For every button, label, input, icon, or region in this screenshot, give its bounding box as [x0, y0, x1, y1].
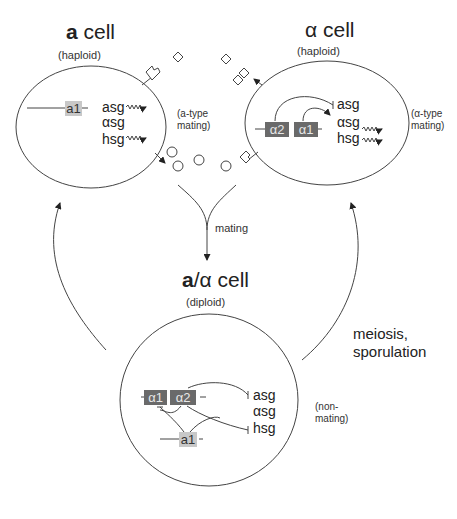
alpha-cell-title: α cell: [305, 18, 355, 42]
diploid-cell-title: a/α cell: [182, 268, 249, 292]
alpha2-locus: α2: [265, 122, 289, 137]
alpha-cell-gene-hsg: hsg: [337, 130, 360, 146]
a1-locus: a1: [65, 101, 82, 116]
diploid-gene-asg: asg: [253, 387, 276, 403]
a-cell-gene-alphasg: αsg: [102, 114, 125, 130]
alpha1-locus: α1: [294, 122, 318, 137]
diploid-alpha2-locus: α2: [170, 390, 196, 405]
a-cell-gene-hsg: hsg: [102, 131, 125, 147]
alpha-cell-gene-alphasg: αsg: [337, 114, 360, 130]
a-cell-gene-asg: asg: [102, 99, 125, 115]
a-cell-ploidy: (haploid): [58, 49, 101, 61]
alpha-cell-ploidy: (haploid): [297, 45, 340, 57]
diagram-canvas: [0, 0, 457, 519]
alpha-cell-phenotype: (α-typemating): [411, 108, 444, 132]
mating-label: mating: [215, 222, 248, 234]
diploid-a1-locus: a1: [179, 432, 197, 447]
diploid-gene-alphasg: αsg: [253, 403, 276, 419]
meiosis-sporulation-label: meiosis,sporulation: [353, 325, 426, 361]
diploid-alpha1-locus: α1: [144, 390, 167, 405]
a-cell-phenotype: (a-typemating): [177, 108, 210, 132]
diploid-gene-hsg: hsg: [253, 420, 276, 436]
a-cell-title: a cell: [66, 20, 115, 44]
diploid-cell-ploidy: (diploid): [186, 296, 225, 308]
alpha-cell-gene-asg: asg: [337, 96, 360, 112]
diploid-phenotype: (non-mating): [315, 401, 348, 425]
